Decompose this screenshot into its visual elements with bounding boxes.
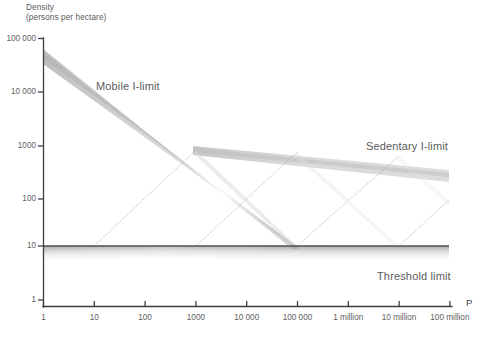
y-tick-label-100: 100 [0,194,36,204]
y-axis-title: Density(persons per hectare) [26,3,106,24]
series-threshold-limit [43,246,449,260]
annotation-mobile-i-limit: Mobile I-limit [96,80,160,94]
y-tick-label-1: 1 [0,295,36,305]
chart-plot-area [0,0,488,339]
ascending-dotted-1 [94,150,196,246]
y-tick-label-10: 10 [0,241,36,251]
y-tick-label-1000: 1000 [0,141,36,151]
x-tick-label-100million: 100 million [418,313,482,323]
x-axis-ticks [44,301,450,306]
y-axis-title-line2: (persons per hectare) [26,13,106,22]
ascending-dotted-4 [399,200,449,246]
annotation-sedentary-i-limit: Sedentary I-limit [366,140,448,154]
y-axis-title-line1: Density [26,3,54,12]
y-tick-label-10000: 10 000 [0,87,36,97]
chart-container: Density(persons per hectare) P 100 000 1… [0,0,488,339]
series-band-mobile [43,49,300,249]
x-axis-title: P [466,297,472,309]
y-tick-label-100000: 100 000 [0,34,36,44]
annotation-threshold-limit: Threshold limit [377,270,451,284]
y-axis-ticks [38,39,43,301]
